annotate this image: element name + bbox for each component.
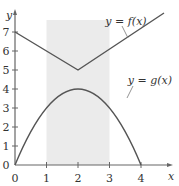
- f-curve-label: y = f(x): [104, 15, 146, 28]
- y-tick-label: 6: [3, 45, 10, 58]
- y-tick-label: 7: [3, 26, 10, 39]
- x-tick-label: 0: [12, 172, 19, 185]
- shaded-region: [47, 20, 110, 165]
- y-tick-label: 5: [3, 64, 10, 77]
- g-curve-label: y = g(x): [127, 74, 172, 87]
- x-tick-label: 1: [43, 172, 50, 185]
- x-tick-label: 2: [75, 172, 82, 185]
- y-tick-label: 3: [3, 102, 10, 115]
- x-axis-arrow: [167, 163, 173, 167]
- y-axis-arrow: [13, 9, 17, 15]
- x-tick-label: 4: [138, 172, 145, 185]
- chart: 0 1 2 3 4 0 1 2 3 4 5 6 7 y x y = f(x) y…: [0, 0, 179, 186]
- g-leader-line: [127, 86, 133, 98]
- y-tick-label: 4: [3, 83, 10, 96]
- y-tick-label: 1: [3, 140, 10, 153]
- y-tick-label: 2: [3, 121, 10, 134]
- x-axis-label: x: [168, 170, 175, 183]
- y-tick-label: 0: [3, 159, 10, 172]
- x-tick-label: 3: [106, 172, 113, 185]
- y-axis-label: y: [5, 9, 13, 22]
